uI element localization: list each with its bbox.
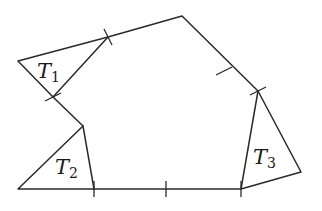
tick-mark-right-edge — [216, 67, 232, 75]
t3-cut-edge — [241, 91, 258, 189]
label-t1: T1 — [37, 61, 60, 84]
label-t3: T3 — [253, 147, 276, 170]
t2-cut-edge — [83, 126, 94, 189]
t1-cut-edge — [53, 37, 108, 97]
tick-mark-t1-bottom — [45, 93, 61, 101]
polygon-diagram: T1 T2 T3 — [0, 0, 322, 211]
label-t2: T2 — [55, 157, 78, 180]
diagram-svg — [0, 0, 322, 211]
